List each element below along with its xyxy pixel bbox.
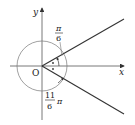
- angle2-pi: π: [56, 97, 63, 106]
- angle-diagram: y x O π 6 11 6 π: [0, 0, 135, 125]
- angle-arc-pi-over-6: [57, 58, 59, 66]
- y-axis-label: y: [32, 7, 39, 17]
- x-axis-label: x: [119, 67, 124, 77]
- angle-dot: [52, 68, 54, 70]
- origin-label: O: [32, 68, 39, 78]
- angle1-denominator: 6: [56, 34, 61, 43]
- angle2-denominator: 6: [47, 102, 52, 111]
- terminal-ray-lower: [42, 66, 124, 114]
- angle-dot: [52, 62, 54, 64]
- angle1-numerator: π: [55, 24, 62, 33]
- angle2-numerator: 11: [45, 91, 55, 100]
- terminal-ray-upper: [42, 19, 124, 66]
